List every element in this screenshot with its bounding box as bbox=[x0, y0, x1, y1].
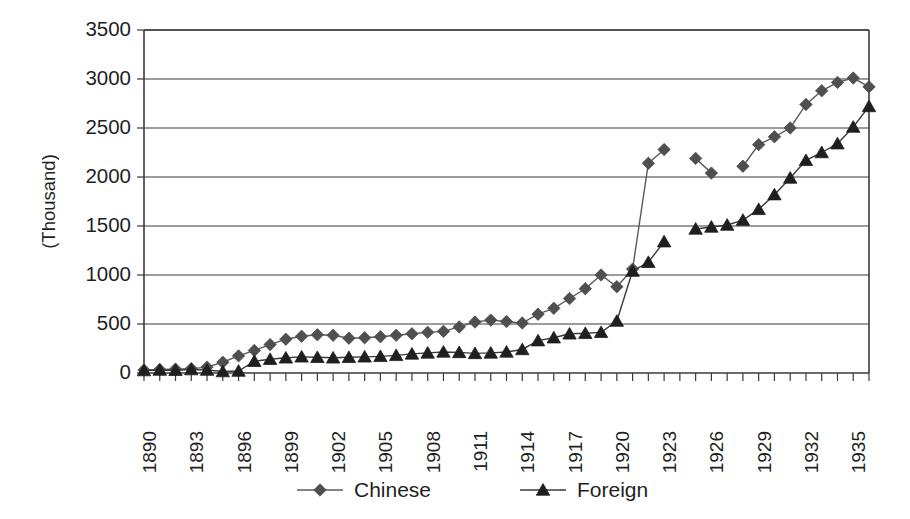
data-point-marker bbox=[390, 329, 402, 341]
series-chinese bbox=[138, 72, 875, 376]
y-tick-label: 3000 bbox=[85, 66, 131, 89]
y-axis-title: (Thousand) bbox=[38, 154, 59, 249]
data-point-marker bbox=[548, 302, 560, 314]
x-tick-label: 1932 bbox=[801, 431, 822, 473]
x-tick-label: 1920 bbox=[612, 431, 633, 473]
data-point-marker bbox=[327, 329, 339, 341]
x-tick-label: 1914 bbox=[517, 431, 538, 474]
y-axis-title-text: (Thousand) bbox=[38, 154, 59, 249]
x-tick-label: 1911 bbox=[470, 431, 491, 472]
legend-marker-diamond-icon bbox=[314, 484, 326, 496]
data-point-marker bbox=[847, 72, 859, 84]
chart-container: 0500100015002000250030003500 18901893189… bbox=[0, 0, 910, 519]
data-point-marker bbox=[831, 76, 843, 88]
x-axis-ticks: 1890189318961899190219051908191119141917… bbox=[139, 373, 869, 473]
x-tick-label: 1899 bbox=[281, 431, 302, 473]
data-point-marker bbox=[406, 328, 418, 340]
legend-entry-chinese[interactable]: Chinese bbox=[297, 478, 431, 501]
x-tick-label: 1905 bbox=[375, 431, 396, 473]
data-point-marker bbox=[847, 121, 860, 133]
y-tick-label: 3500 bbox=[85, 17, 131, 40]
data-point-marker bbox=[642, 256, 655, 268]
y-tick-label: 1000 bbox=[85, 262, 131, 285]
legend-entry-foreign[interactable]: Foreign bbox=[520, 478, 648, 501]
data-point-marker bbox=[799, 154, 812, 166]
data-point-marker bbox=[563, 292, 575, 304]
x-tick-label: 1926 bbox=[706, 431, 727, 473]
legend-label: Foreign bbox=[577, 478, 648, 501]
line-chart: 0500100015002000250030003500 18901893189… bbox=[0, 0, 910, 519]
data-point-marker bbox=[815, 146, 828, 158]
data-point-marker bbox=[311, 329, 323, 341]
y-tick-label: 0 bbox=[120, 360, 131, 383]
data-point-marker bbox=[453, 321, 465, 333]
data-point-marker bbox=[421, 326, 433, 338]
x-tick-label: 1935 bbox=[848, 431, 869, 473]
data-point-marker bbox=[295, 350, 308, 362]
data-point-marker bbox=[232, 365, 245, 377]
data-point-marker bbox=[736, 214, 749, 226]
series-line bbox=[144, 242, 664, 372]
data-point-marker bbox=[532, 308, 544, 320]
x-tick-label: 1893 bbox=[186, 431, 207, 473]
series-line bbox=[743, 78, 869, 166]
data-point-marker bbox=[784, 122, 796, 134]
data-point-marker bbox=[752, 138, 764, 150]
series-line bbox=[696, 106, 869, 229]
data-point-marker bbox=[264, 338, 276, 350]
x-tick-label: 1890 bbox=[139, 431, 160, 473]
data-point-marker bbox=[768, 131, 780, 143]
data-point-marker bbox=[500, 315, 512, 327]
x-tick-label: 1917 bbox=[565, 431, 586, 473]
chart-legend: ChineseForeign bbox=[297, 478, 648, 501]
y-tick-label: 2500 bbox=[85, 115, 131, 138]
data-point-marker bbox=[358, 332, 370, 344]
data-series bbox=[137, 72, 875, 377]
y-axis-ticks: 0500100015002000250030003500 bbox=[85, 17, 144, 383]
data-point-marker bbox=[469, 316, 481, 328]
data-point-marker bbox=[516, 343, 529, 355]
data-point-marker bbox=[720, 219, 733, 231]
gridlines bbox=[144, 30, 869, 324]
data-point-marker bbox=[863, 81, 875, 93]
data-point-marker bbox=[232, 350, 244, 362]
data-point-marker bbox=[437, 346, 450, 358]
y-tick-label: 2000 bbox=[85, 164, 131, 187]
y-tick-label: 500 bbox=[97, 311, 131, 334]
data-point-marker bbox=[516, 317, 528, 329]
data-point-marker bbox=[280, 333, 292, 345]
data-point-marker bbox=[343, 332, 355, 344]
data-point-marker bbox=[862, 100, 875, 112]
data-point-marker bbox=[610, 315, 623, 327]
x-tick-label: 1923 bbox=[659, 431, 680, 473]
x-tick-label: 1908 bbox=[423, 431, 444, 473]
y-tick-label: 1500 bbox=[85, 213, 131, 236]
data-point-marker bbox=[374, 331, 386, 343]
data-point-marker bbox=[295, 330, 307, 342]
x-tick-label: 1896 bbox=[234, 431, 255, 473]
legend-label: Chinese bbox=[354, 478, 431, 501]
data-point-marker bbox=[437, 325, 449, 337]
x-tick-label: 1929 bbox=[754, 431, 775, 473]
data-point-marker bbox=[657, 235, 670, 247]
data-point-marker bbox=[737, 160, 749, 172]
data-point-marker bbox=[594, 326, 607, 338]
x-tick-label: 1902 bbox=[328, 431, 349, 473]
